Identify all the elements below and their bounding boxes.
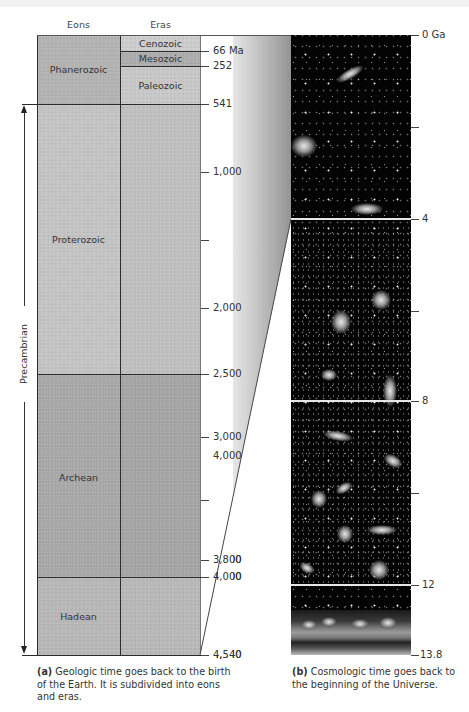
galaxy-image <box>371 290 391 310</box>
tick-label-12: 12 <box>422 579 435 591</box>
galaxy-image <box>291 135 317 157</box>
tick-1000-overlay <box>201 172 209 173</box>
tick-2500 <box>201 374 209 375</box>
tick-541 <box>201 104 209 105</box>
tick-label-2000-overlay: 2,000 <box>213 302 242 314</box>
tick-minor-10-ga <box>411 493 419 494</box>
tick-label-4: 4 <box>422 213 428 225</box>
tick-minor-6-ga <box>411 311 419 312</box>
tick-66 <box>201 51 209 52</box>
tick-label-8: 8 <box>422 395 428 407</box>
tick-4-ga <box>411 219 419 220</box>
tick-0-ga <box>411 35 419 36</box>
protogalaxy <box>379 617 397 629</box>
tick-13-8-ga <box>411 655 419 656</box>
tick-label-541-overlay: 541 <box>213 98 232 110</box>
tick-3800-overlay <box>201 560 209 561</box>
tick-4000 <box>201 577 209 578</box>
caption-b-label: (b) <box>292 666 308 677</box>
tick-minor-overlay <box>201 240 209 241</box>
tick-label-3800-overlay: 3,800 <box>213 554 242 566</box>
tick-minor-2-ga <box>411 127 419 128</box>
galaxy-image <box>383 375 397 407</box>
cosmic-background-band <box>291 610 411 655</box>
deep-field-image <box>291 35 411 655</box>
tick-minor-overlay <box>201 500 209 501</box>
tick-label-13-8: 13.8 <box>420 649 442 661</box>
protogalaxy <box>351 619 369 629</box>
boundary-4-ga <box>291 218 411 220</box>
tick-label-0-ga: 0 Ga <box>422 29 445 41</box>
protogalaxy <box>321 617 337 627</box>
galaxy-image <box>369 560 389 580</box>
galaxy-image <box>311 490 327 508</box>
tick-label-2500-overlay: 2,500 <box>213 368 242 380</box>
galaxy-image <box>351 203 383 215</box>
tick-label-4000-overlay: 4,000 <box>213 571 242 583</box>
tick-8-ga <box>411 401 419 402</box>
galaxy-image <box>321 369 337 381</box>
tick-3000-overlay <box>201 437 209 438</box>
caption-b-text: Cosmologic time goes back to the beginni… <box>292 666 455 690</box>
tick-4540 <box>201 655 209 656</box>
protogalaxy <box>301 620 317 630</box>
caption-b: (b) Cosmologic time goes back to the beg… <box>292 666 467 691</box>
tick-label-4540-overlay: 4,540 <box>213 649 242 661</box>
tick-12-ga <box>411 585 419 586</box>
tick-label-1000-overlay: 1,000 <box>213 166 242 178</box>
tick-label-4000-upper-overlay: 4,000 <box>213 450 242 462</box>
tick-2000-overlay <box>201 308 209 309</box>
tick-label-66-overlay: 66 Ma <box>213 45 244 57</box>
galaxy-image <box>367 525 397 535</box>
boundary-8-ga <box>291 400 411 402</box>
galaxy-image <box>331 310 351 334</box>
galaxy-image <box>337 525 353 543</box>
boundary-12-ga <box>291 584 411 586</box>
tick-252 <box>201 66 209 67</box>
tick-label-252-overlay: 252 <box>213 60 232 72</box>
tick-label-3000-overlay: 3,000 <box>213 431 242 443</box>
